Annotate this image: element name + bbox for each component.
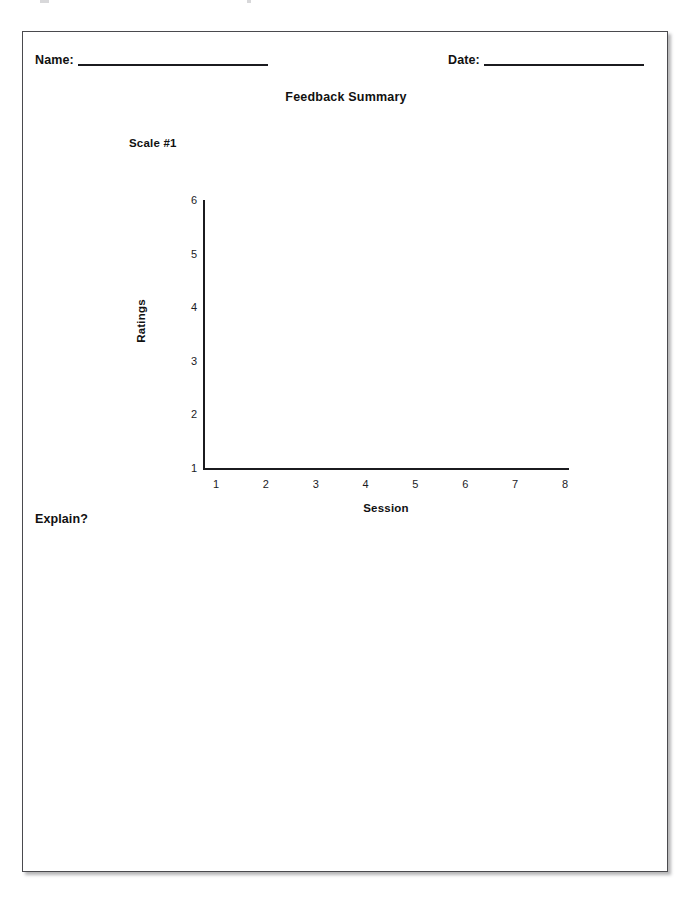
name-field-group[interactable]: Name: [35,54,268,67]
chart-x-tick-label: 8 [553,479,577,490]
form-title: Feedback Summary [23,90,669,104]
chart-x-tick-label: 1 [204,479,228,490]
chart-y-tick-label: 1 [171,463,197,474]
scan-artifact-mark [247,0,251,3]
date-write-in-line[interactable] [484,64,644,66]
scan-top-artifact [0,0,694,10]
chart-x-tick-label: 4 [354,479,378,490]
worksheet-page: Name: Date: Feedback Summary Scale #1 65… [22,31,668,872]
chart-x-tick-label: 2 [254,479,278,490]
chart-y-tick-label: 3 [171,356,197,367]
date-field-label: Date: [448,54,480,67]
name-field-label: Name: [35,54,74,67]
chart-plot-area[interactable] [203,200,568,468]
chart-y-tick-labels: 654321 [163,137,197,497]
chart-x-tick-label: 5 [403,479,427,490]
name-write-in-line[interactable] [78,64,268,66]
chart-x-axis-line [203,468,569,470]
explain-prompt-label: Explain? [35,512,88,526]
chart-y-axis-title: Ratings [135,281,147,361]
rating-chart: Scale #1 654321 12345678 Ratings Session [109,137,579,497]
chart-y-tick-label: 2 [171,409,197,420]
chart-x-tick-labels: 12345678 [109,479,579,495]
chart-y-tick-label: 6 [171,195,197,206]
date-field-group[interactable]: Date: [448,54,644,67]
chart-x-tick-label: 3 [304,479,328,490]
chart-x-tick-label: 6 [453,479,477,490]
scan-artifact-mark [40,0,49,3]
explain-response-area[interactable] [35,534,655,859]
chart-x-tick-label: 7 [503,479,527,490]
chart-y-tick-label: 5 [171,249,197,260]
chart-y-tick-label: 4 [171,302,197,313]
chart-x-axis-title: Session [203,502,569,514]
form-header-row: Name: Date: [23,32,669,80]
